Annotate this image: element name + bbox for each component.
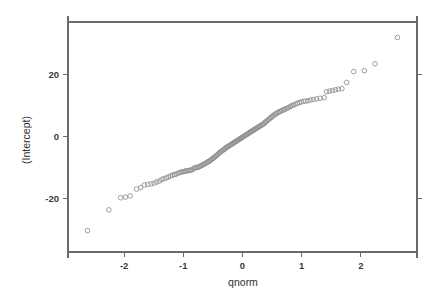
x-tick-label: -2 — [120, 260, 128, 271]
x-tick-label: 2 — [358, 260, 363, 271]
y-tick-label: 0 — [54, 131, 59, 142]
x-tick-label: 1 — [299, 260, 305, 271]
x-axis-title: qnorm — [228, 276, 258, 288]
y-axis-title: (Intercept) — [20, 116, 32, 164]
y-tick-label: -20 — [45, 193, 59, 204]
qq-plot-figure: -2-1012 -20020 qnorm (Intercept) — [0, 0, 444, 300]
y-tick-label: 20 — [48, 69, 59, 80]
x-tick-label: -1 — [179, 260, 188, 271]
qq-plot-canvas: -2-1012 -20020 qnorm (Intercept) — [0, 0, 444, 300]
x-tick-label: 0 — [240, 260, 245, 271]
